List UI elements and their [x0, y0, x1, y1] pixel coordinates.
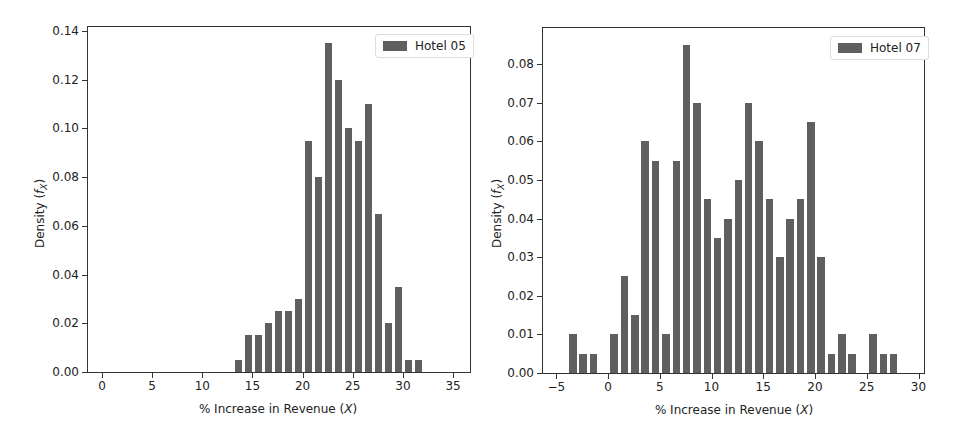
histogram-bar — [766, 199, 774, 373]
histogram-bar — [817, 257, 825, 373]
x-tick-label: −5 — [547, 380, 565, 394]
histogram-bar — [579, 354, 587, 373]
histogram-bar — [621, 276, 629, 373]
histogram-bar — [673, 161, 681, 373]
plot-area-hotel-07 — [542, 27, 925, 374]
x-tick-mark — [815, 374, 816, 379]
y-tick-mark — [537, 373, 542, 374]
x-tick-mark — [608, 374, 609, 379]
x-tick-label: 15 — [756, 380, 771, 394]
histogram-bar — [735, 180, 743, 373]
histogram-bar — [755, 141, 763, 373]
histogram-bar — [631, 315, 639, 373]
x-axis-label: % Increase in Revenue (X) — [655, 403, 813, 417]
histogram-bar — [714, 238, 722, 373]
y-tick-label: 0.08 — [494, 57, 534, 71]
histogram-bar — [807, 122, 815, 373]
histogram-bar — [704, 199, 712, 373]
histogram-bar — [652, 161, 660, 373]
legend-hotel-07: Hotel 07 — [830, 36, 929, 60]
histogram-bar — [828, 354, 836, 373]
x-tick-mark — [867, 374, 868, 379]
x-tick-label: 20 — [807, 380, 822, 394]
y-tick-label: 0.03 — [494, 250, 534, 264]
histogram-bar — [838, 334, 846, 373]
histogram-bar — [662, 334, 670, 373]
y-tick-mark — [537, 141, 542, 142]
histogram-bar — [590, 354, 598, 373]
histogram-bar — [776, 257, 784, 373]
x-tick-label: 30 — [911, 380, 926, 394]
y-tick-mark — [537, 103, 542, 104]
y-tick-label: 0.07 — [494, 96, 534, 110]
y-tick-label: 0.06 — [494, 134, 534, 148]
x-tick-mark — [919, 374, 920, 379]
histogram-bar — [641, 141, 649, 373]
x-tick-mark — [712, 374, 713, 379]
y-tick-label: 0.01 — [494, 327, 534, 341]
y-tick-mark — [537, 180, 542, 181]
y-tick-mark — [537, 257, 542, 258]
y-tick-mark — [537, 296, 542, 297]
y-tick-mark — [537, 64, 542, 65]
x-tick-mark — [556, 374, 557, 379]
histogram-bar — [724, 219, 732, 374]
histogram-bar — [683, 45, 691, 373]
x-tick-label: 10 — [704, 380, 719, 394]
histogram-bar — [848, 354, 856, 373]
legend-label: Hotel 07 — [870, 41, 921, 55]
histogram-bar — [890, 354, 898, 373]
x-tick-mark — [660, 374, 661, 379]
x-tick-mark — [763, 374, 764, 379]
legend-swatch-icon — [838, 43, 862, 53]
y-tick-mark — [537, 334, 542, 335]
y-tick-label: 0.02 — [494, 289, 534, 303]
x-tick-label: 0 — [604, 380, 612, 394]
histogram-bar — [693, 103, 701, 373]
x-tick-label: 5 — [656, 380, 664, 394]
histogram-bar — [610, 334, 618, 373]
histogram-bar — [569, 334, 577, 373]
x-tick-label: 25 — [859, 380, 874, 394]
histogram-bar — [797, 199, 805, 373]
chart-hotel-07: −50510152025300.000.010.020.030.040.050.… — [0, 0, 957, 443]
histogram-bar — [786, 219, 794, 374]
histogram-bar — [880, 354, 888, 373]
y-axis-label: Density (fX) — [490, 179, 506, 248]
histogram-bar — [745, 103, 753, 373]
y-tick-mark — [537, 219, 542, 220]
y-tick-label: 0.00 — [494, 366, 534, 380]
histogram-bar — [869, 334, 877, 373]
